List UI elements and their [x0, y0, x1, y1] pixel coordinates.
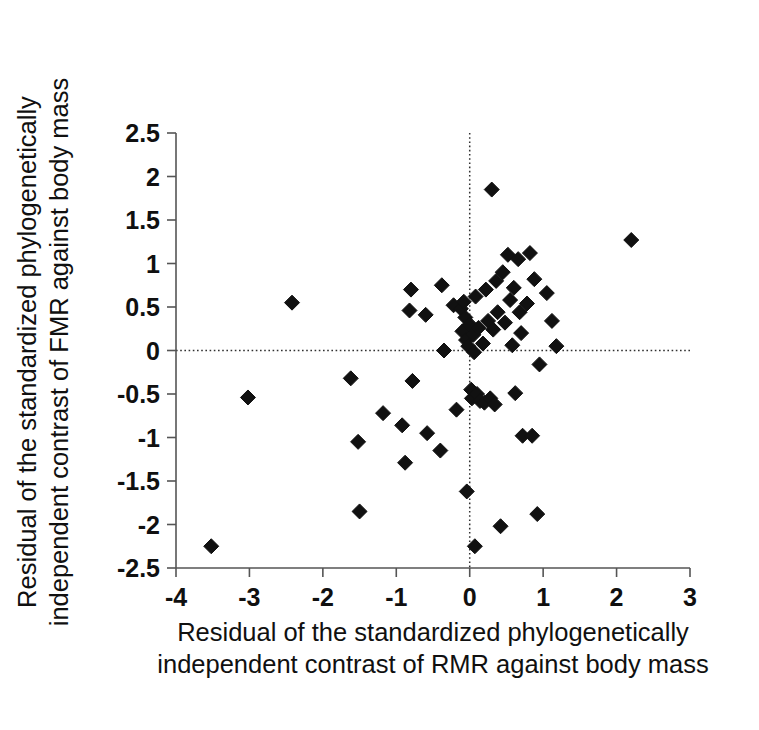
data-point-marker — [503, 293, 518, 308]
y-tick-group — [167, 133, 176, 568]
x-tick-group — [176, 568, 690, 577]
y-tick-label: 0.5 — [125, 293, 160, 321]
plot-canvas: -4-3-2-10123 2.521.510.50-0.5-1-1.5-2-2.… — [0, 0, 759, 730]
x-tick-label-group: -4-3-2-10123 — [165, 583, 697, 611]
x-tick-label: 0 — [463, 583, 477, 611]
scatter-plot-figure: -4-3-2-10123 2.521.510.50-0.5-1-1.5-2-2.… — [0, 0, 759, 730]
data-point-marker — [395, 418, 410, 433]
data-point-marker — [493, 519, 508, 534]
data-point-marker — [514, 326, 529, 341]
data-point-marker — [539, 286, 554, 301]
y-tick-label: -1 — [138, 424, 160, 452]
y-tick-label: -1.5 — [117, 467, 160, 495]
x-tick-label: -3 — [238, 583, 260, 611]
data-point-marker — [420, 426, 435, 441]
data-points-group — [204, 182, 639, 554]
reference-lines-group — [176, 133, 690, 568]
y-tick-label: 0 — [146, 337, 160, 365]
data-point-marker — [351, 434, 366, 449]
data-point-marker — [484, 182, 499, 197]
data-point-marker — [525, 428, 540, 443]
data-point-marker — [437, 343, 452, 358]
y-tick-label: 1.5 — [125, 206, 160, 234]
y-tick-label: 2.5 — [125, 119, 160, 147]
data-point-marker — [240, 390, 255, 405]
data-point-marker — [433, 443, 448, 458]
data-point-marker — [506, 280, 521, 295]
data-point-marker — [403, 282, 418, 297]
y-tick-label: -2 — [138, 511, 160, 539]
y-tick-label: 1 — [146, 250, 160, 278]
data-point-marker — [402, 303, 417, 318]
data-point-marker — [343, 371, 358, 386]
x-axis-title-line2: independent contrast of RMR against body… — [157, 650, 708, 678]
x-axis-title-line1: Residual of the standardized phylogeneti… — [177, 618, 689, 646]
data-point-marker — [434, 278, 449, 293]
data-point-marker — [418, 307, 433, 322]
data-point-marker — [532, 357, 547, 372]
y-axis-title-line1: Residual of the standardized phylogeneti… — [13, 96, 41, 608]
data-point-marker — [449, 402, 464, 417]
y-tick-label: -0.5 — [117, 380, 160, 408]
data-point-marker — [527, 272, 542, 287]
y-axis-title-line2: independent contrast of FMR against body… — [45, 78, 73, 627]
data-point-marker — [549, 339, 564, 354]
data-point-marker — [285, 295, 300, 310]
x-tick-label: 1 — [536, 583, 550, 611]
data-point-marker — [376, 406, 391, 421]
data-point-marker — [530, 507, 545, 522]
data-point-marker — [405, 373, 420, 388]
x-tick-label: -1 — [385, 583, 407, 611]
data-point-marker — [398, 455, 413, 470]
y-tick-label: -2.5 — [117, 554, 160, 582]
data-point-marker — [352, 504, 367, 519]
data-point-marker — [204, 539, 219, 554]
x-tick-label: 2 — [610, 583, 624, 611]
y-tick-label-group: 2.521.510.50-0.5-1-1.5-2-2.5 — [117, 119, 160, 582]
data-point-marker — [544, 313, 559, 328]
data-point-marker — [459, 484, 474, 499]
x-tick-label: 3 — [683, 583, 697, 611]
data-point-marker — [508, 386, 523, 401]
x-tick-label: -2 — [312, 583, 334, 611]
x-tick-label: -4 — [165, 583, 187, 611]
data-point-marker — [624, 233, 639, 248]
y-tick-label: 2 — [146, 163, 160, 191]
